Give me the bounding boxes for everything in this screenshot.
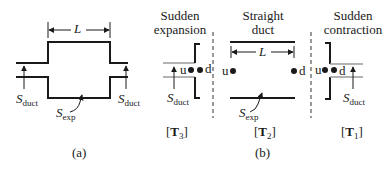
section-t2-title: Straight duct (230, 9, 296, 37)
t2-area-subscript: exp (246, 112, 259, 122)
t3-tag: [T3] (166, 125, 188, 143)
t3-tag-letter: T (170, 124, 179, 139)
t2-upstream-label: u (222, 64, 229, 78)
t3-downstream-label: d (205, 62, 212, 76)
t1-tag: [T1] (341, 125, 363, 143)
inlet-area-subscript: duct (23, 98, 39, 108)
t2-tag-subscript: 2 (267, 131, 272, 141)
section-t3-title-line1: Sudden (150, 9, 210, 23)
t3-upstream-label: u (180, 63, 187, 77)
length-label-a: L (74, 22, 81, 36)
t1-area-subscript: duct (350, 97, 366, 107)
outlet-area-label: Sduct (118, 92, 140, 110)
caption-a: (a) (72, 146, 86, 160)
t1-tag-letter: T (345, 124, 354, 139)
section-t3-title: Sudden expansion (150, 9, 210, 37)
t1-upstream-label: u (315, 63, 322, 77)
section-t3-title-line2: expansion (150, 23, 210, 37)
t2-downstream-label: d (299, 64, 306, 78)
length-label-b: L (259, 45, 266, 59)
inlet-area-label: Sduct (16, 92, 38, 110)
section-t1-title-line2: contraction (318, 23, 388, 37)
section-t1-title-line1: Sudden (318, 9, 388, 23)
t2-area-label: Sexp (239, 106, 259, 124)
section-t2-title-line1: Straight (230, 9, 296, 23)
t2-tag-letter: T (258, 124, 267, 139)
expansion-area-label: Sexp (56, 106, 76, 124)
t1-downstream-label: d (339, 64, 346, 78)
t3-tag-subscript: 3 (179, 131, 184, 141)
section-t1-title: Sudden contraction (318, 9, 388, 37)
t3-area-label: Sduct (167, 91, 189, 109)
section-t2-title-line2: duct (230, 23, 296, 37)
t1-tag-subscript: 1 (354, 131, 359, 141)
caption-b: (b) (255, 146, 270, 160)
t1-area-label: Sduct (343, 91, 365, 109)
t3-area-subscript: duct (174, 97, 190, 107)
expansion-area-subscript: exp (63, 112, 76, 122)
outlet-area-subscript: duct (125, 98, 141, 108)
t2-tag: [T2] (254, 125, 276, 143)
